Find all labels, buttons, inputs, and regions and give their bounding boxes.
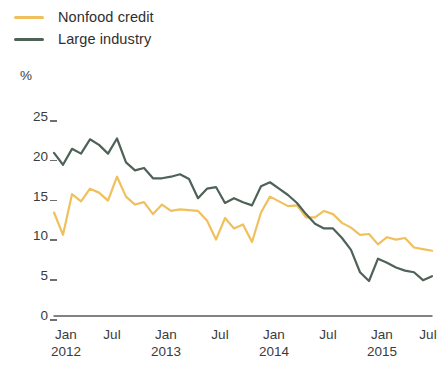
plot-area — [0, 0, 444, 370]
chart-container: Nonfood credit Large industry % 25201510… — [0, 0, 444, 370]
line-series-nonfood-credit — [54, 177, 432, 251]
line-series-large-industry — [54, 138, 432, 280]
